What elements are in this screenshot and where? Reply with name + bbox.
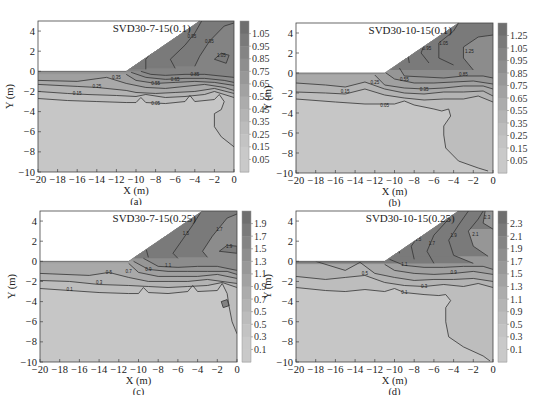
contour-label: 0.25: [370, 80, 379, 85]
colorbar-tick-label: 0.15: [510, 143, 528, 154]
contour-label: 0.1: [66, 287, 73, 292]
chart-panel-a: 0.050.150.250.350.550.650.850.750.950.95…: [0, 0, 270, 205]
colorbar-tick-label: 1.1: [510, 294, 523, 305]
y-axis-label: Y (m): [4, 84, 16, 109]
colorbar: 2.32.11.91.71.51.31.10.90.50.30.1: [498, 211, 523, 363]
x-tick-label: −12: [108, 174, 124, 185]
colorbar-tick-label: 0.75: [510, 80, 528, 91]
contour-label: 1.7: [429, 241, 436, 246]
y-tick-label: −10: [277, 168, 293, 179]
y-tick-label: −10: [19, 167, 35, 178]
y-tick-label: −8: [282, 336, 293, 347]
x-tick-label: −4: [192, 364, 204, 375]
colorbar-tick-label: 1.5: [510, 268, 523, 279]
contour-label: 0.35: [112, 75, 121, 80]
y-tick-label: −6: [282, 128, 293, 139]
colorbar-tick-label: 0.9: [510, 306, 523, 317]
x-tick-label: −14: [89, 174, 106, 185]
x-tick-label: −6: [428, 364, 439, 375]
y-tick-label: −4: [24, 106, 36, 117]
x-tick-label: −16: [69, 174, 85, 185]
x-tick-label: −16: [71, 364, 87, 375]
colorbar-tick-label: 0.65: [510, 93, 528, 104]
y-tick-label: 0: [32, 256, 37, 267]
y-tick-label: −2: [282, 276, 293, 287]
x-tick-label: −8: [153, 364, 164, 375]
colorbar-tick-label: 1.3: [510, 281, 523, 292]
y-axis-label: Y (m): [6, 274, 18, 299]
contour-label: 0.15: [73, 91, 82, 96]
contour-label: 0.95: [187, 34, 196, 39]
x-tick-label: −14: [347, 175, 364, 186]
x-tick-label: −8: [150, 174, 161, 185]
y-tick-label: −2: [24, 86, 35, 97]
y-tick-label: −10: [277, 357, 293, 368]
x-tick-label: −10: [386, 175, 402, 186]
x-tick-label: −12: [367, 175, 383, 186]
contour-label: 0.25: [92, 84, 101, 89]
contour-plot: 0.10.30.50.70.91.11.51.51.71.9SVD30-7-15…: [2, 190, 283, 395]
y-tick-label: −4: [26, 296, 38, 307]
x-tick-label: −12: [367, 364, 383, 375]
x-tick-label: −10: [130, 364, 146, 375]
colorbar-tick-label: 0.1: [510, 344, 523, 355]
x-tick-label: −8: [409, 175, 420, 186]
chart-panel-d: 0.10.30.50.91.11.31.51.71.92.12.3SVD30-1…: [258, 190, 539, 395]
colorbar-tick-label: 0.5: [510, 319, 523, 330]
y-tick-label: 2: [32, 236, 37, 247]
x-tick-label: −6: [428, 175, 439, 186]
contour-label: 0.85: [190, 72, 199, 77]
contour-label: 0.35: [420, 87, 429, 92]
contour-label: 0.5: [106, 270, 113, 275]
x-tick-label: −6: [172, 364, 183, 375]
contour-label: 0.05: [151, 101, 160, 106]
y-tick-label: 4: [32, 216, 38, 227]
contour-label: 1.1: [165, 263, 172, 268]
x-tick-label: 0: [490, 175, 495, 186]
x-tick-label: −4: [189, 174, 201, 185]
x-tick-label: −10: [386, 364, 402, 375]
contour-label: 0.85: [459, 72, 468, 77]
contour-label: 2.3: [484, 215, 491, 220]
x-tick-label: −14: [91, 364, 108, 375]
x-tick-label: −2: [212, 364, 223, 375]
y-tick-label: 4: [288, 216, 294, 227]
contour-label: 0.3: [421, 284, 428, 289]
y-tick-label: 2: [288, 48, 293, 59]
y-tick-label: 2: [30, 46, 35, 57]
contour-plot: 0.050.150.250.350.550.850.750.951.051.25…: [258, 2, 539, 207]
x-tick-label: −4: [448, 364, 460, 375]
contour-label: 0.55: [400, 77, 409, 82]
x-tick-label: −16: [327, 175, 343, 186]
contour-label: 0.5: [362, 271, 369, 276]
contour-label: 0.9: [450, 270, 457, 275]
x-tick-label: −18: [307, 364, 323, 375]
panel-label: (c): [133, 386, 145, 395]
x-tick-label: −18: [307, 175, 323, 186]
y-tick-label: −8: [282, 148, 293, 159]
x-tick-label: −12: [111, 364, 127, 375]
y-tick-label: −4: [282, 296, 294, 307]
y-tick-label: 0: [288, 68, 293, 79]
colorbar-tick-label: 1.25: [510, 30, 528, 41]
colorbar-tick-label: 0.25: [510, 130, 528, 141]
chart-panel-b: 0.050.150.250.350.550.850.750.951.051.25…: [258, 2, 539, 207]
colorbar-tick-label: 0.95: [510, 55, 528, 66]
contour-label: 1.9: [226, 244, 233, 249]
colorbar-tick-label: 1.05: [510, 43, 528, 54]
chart-panel-c: 0.10.30.50.70.91.11.51.51.71.9SVD30-7-15…: [2, 190, 272, 395]
x-tick-label: −6: [170, 174, 181, 185]
colorbar-tick-label: 1.9: [510, 243, 523, 254]
contour-label: 1.05: [439, 41, 448, 46]
contour-label: 1.05: [217, 53, 226, 58]
x-tick-label: −2: [468, 175, 479, 186]
contour-label: 1.9: [450, 233, 457, 238]
contour-label: 0.9: [145, 267, 152, 272]
colorbar-tick-label: 0.35: [510, 118, 528, 129]
y-tick-label: −2: [282, 88, 293, 99]
y-axis-label: Y (m): [262, 85, 274, 110]
y-tick-label: −6: [24, 126, 35, 137]
y-tick-label: 2: [288, 236, 293, 247]
contour-label: 0.65: [171, 77, 180, 82]
colorbar-tick-label: 0.3: [510, 331, 523, 342]
